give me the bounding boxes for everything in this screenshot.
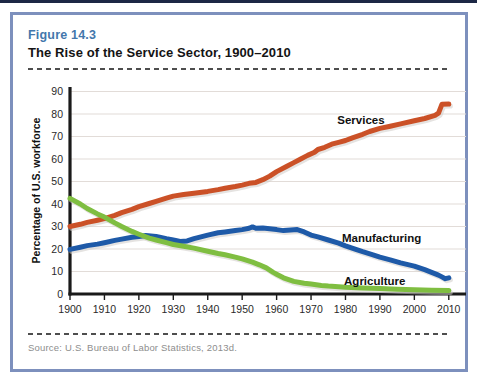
series-label-services: Services	[337, 114, 384, 126]
x-tick-label: 2010	[437, 303, 461, 315]
x-tick-label: 1960	[265, 303, 289, 315]
series-label-manufacturing: Manufacturing	[342, 232, 421, 244]
x-tick-label: 1990	[368, 303, 392, 315]
series-line-services	[70, 104, 449, 226]
top-dashed-divider	[28, 68, 450, 70]
page-top-edge-bar	[0, 0, 477, 3]
y-tick-label: 80	[51, 108, 63, 120]
y-tick-label: 40	[51, 198, 63, 210]
y-axis-title: Percentage of U.S. workforce	[30, 117, 42, 263]
bottom-dashed-divider	[28, 333, 450, 335]
x-tick-label: 1970	[299, 303, 323, 315]
x-tick-label: 1930	[162, 303, 186, 315]
x-tick-label: 1920	[127, 303, 151, 315]
series-label-agriculture: Agriculture	[344, 275, 405, 287]
line-chart-svg: 1900191019201930194019501960197019801990…	[30, 82, 475, 320]
y-tick-label: 70	[51, 130, 63, 142]
y-tick-label: 60	[51, 153, 63, 165]
figure-title: The Rise of the Service Sector, 1900–201…	[28, 45, 450, 60]
x-tick-label: 1940	[196, 303, 220, 315]
y-tick-label: 0	[57, 288, 63, 300]
x-tick-label: 1910	[93, 303, 117, 315]
figure-label: Figure 14.3	[28, 28, 450, 42]
y-tick-label: 50	[51, 175, 63, 187]
y-tick-label: 20	[51, 243, 63, 255]
figure-box: Figure 14.3 The Rise of the Service Sect…	[10, 12, 468, 372]
y-tick-label: 10	[51, 265, 63, 277]
x-tick-label: 1900	[58, 303, 82, 315]
y-tick-label: 90	[51, 85, 63, 97]
x-tick-label: 2000	[403, 303, 427, 315]
x-tick-label: 1950	[230, 303, 254, 315]
y-tick-label: 30	[51, 220, 63, 232]
chart-area: 1900191019201930194019501960197019801990…	[30, 82, 450, 320]
source-credit: Source: U.S. Bureau of Labor Statistics,…	[28, 342, 450, 353]
x-tick-label: 1980	[334, 303, 358, 315]
